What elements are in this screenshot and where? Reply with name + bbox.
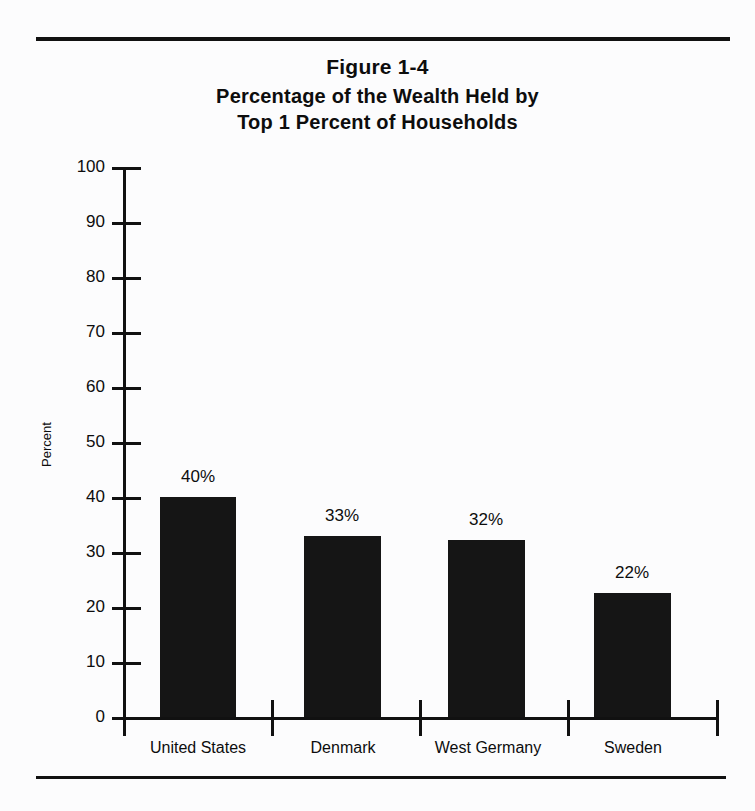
bar-value-sweden: 22% xyxy=(572,563,692,583)
y-tick-label-30: 30 xyxy=(45,542,105,562)
bar-value-denmark: 33% xyxy=(282,506,402,526)
bar-west-germany[interactable] xyxy=(448,540,525,717)
y-tick-label-40: 40 xyxy=(45,487,105,507)
x-tick-boundary-3 xyxy=(567,700,570,736)
y-tick-label-10: 10 xyxy=(45,652,105,672)
bar-sweden[interactable] xyxy=(594,593,671,717)
category-label-sweden: Sweden xyxy=(543,739,723,757)
bar-value-west-germany: 32% xyxy=(426,510,546,530)
y-tick-label-20: 20 xyxy=(45,597,105,617)
y-tick-80 xyxy=(112,277,141,280)
y-tick-100 xyxy=(112,167,141,170)
y-tick-label-70: 70 xyxy=(45,322,105,342)
x-tick-boundary-4 xyxy=(716,700,719,736)
y-tick-30 xyxy=(112,552,141,555)
y-tick-50 xyxy=(112,442,141,445)
y-tick-40 xyxy=(112,497,141,500)
bottom-divider-rule xyxy=(36,776,726,779)
x-tick-boundary-0 xyxy=(123,700,126,736)
y-tick-label-60: 60 xyxy=(45,377,105,397)
y-tick-70 xyxy=(112,332,141,335)
x-tick-boundary-2 xyxy=(419,700,422,736)
figure-page: Figure 1-4 Percentage of the Wealth Held… xyxy=(0,0,755,811)
y-tick-label-100: 100 xyxy=(45,157,105,177)
bar-united-states[interactable] xyxy=(160,497,236,717)
bar-value-united-states: 40% xyxy=(138,467,258,487)
y-tick-0 xyxy=(112,717,141,720)
x-tick-boundary-1 xyxy=(271,700,274,736)
y-tick-60 xyxy=(112,387,141,390)
y-tick-label-90: 90 xyxy=(45,212,105,232)
y-tick-90 xyxy=(112,222,141,225)
bar-denmark[interactable] xyxy=(304,536,381,717)
y-tick-label-0: 0 xyxy=(45,707,105,727)
y-tick-label-50: 50 xyxy=(45,432,105,452)
bar-chart-plot: Percent 100 90 80 70 60 50 40 30 20 10 0 xyxy=(0,0,755,811)
y-tick-10 xyxy=(112,662,141,665)
y-tick-label-80: 80 xyxy=(45,267,105,287)
y-tick-20 xyxy=(112,607,141,610)
